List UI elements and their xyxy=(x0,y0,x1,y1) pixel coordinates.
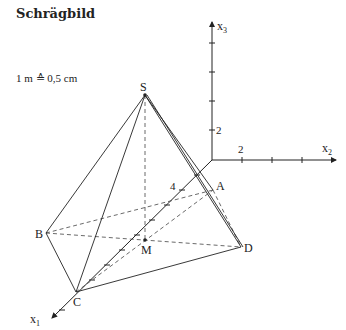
label-M: M xyxy=(141,243,152,257)
x1-tick-label: 4 xyxy=(170,180,176,192)
edge-SD-double xyxy=(147,95,243,247)
points: S A B C D M xyxy=(35,80,253,309)
point-M xyxy=(143,238,147,242)
edge-SB xyxy=(46,95,145,233)
label-C: C xyxy=(73,295,81,309)
edge-BC xyxy=(46,233,76,292)
edge-SA xyxy=(145,95,213,190)
edge-SD xyxy=(145,95,241,247)
visible-edges xyxy=(46,95,243,292)
x3-axis-label: x3 xyxy=(217,19,227,35)
edge-AD-hidden xyxy=(213,190,241,247)
edge-SC xyxy=(76,95,145,292)
label-A: A xyxy=(216,179,225,193)
label-S: S xyxy=(140,80,147,94)
x3-tick-label: 2 xyxy=(216,124,222,136)
label-B: B xyxy=(35,227,43,241)
label-D: D xyxy=(244,241,253,255)
coordinate-axes: 2 2 4 x3 x2 x1 xyxy=(30,19,336,328)
x2-axis-label: x2 xyxy=(322,141,332,157)
pyramid-diagram: 2 2 4 x3 x2 x1 S A B C D M xyxy=(0,0,346,330)
x1-axis-label: x1 xyxy=(30,312,40,328)
x2-tick-label: 2 xyxy=(238,143,244,155)
edge-BA xyxy=(46,190,213,233)
